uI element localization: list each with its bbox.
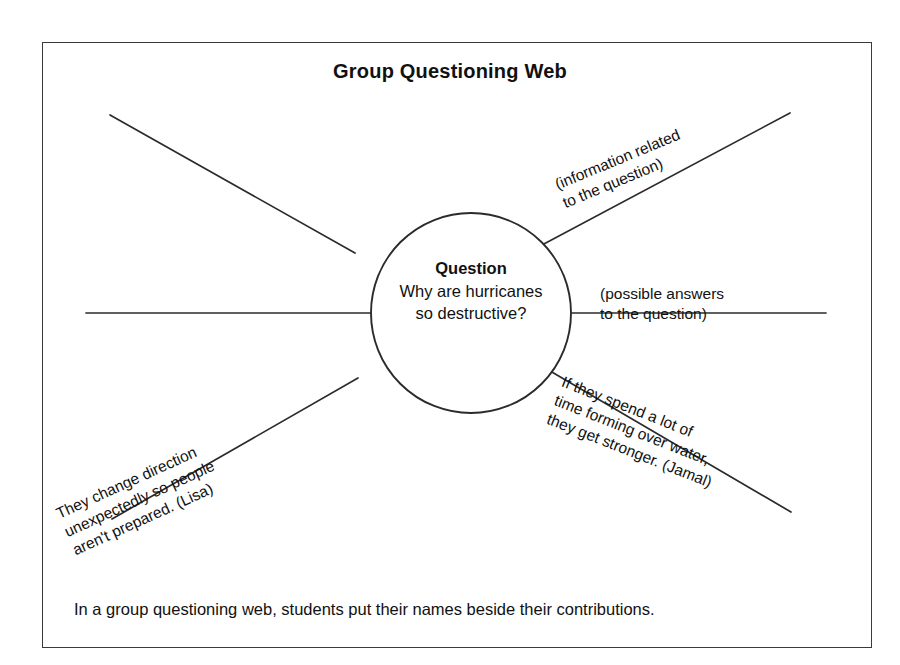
center-question-line-2: so destructive? [371,303,571,324]
spoke-line-upper-left [110,115,355,253]
page-title: Group Questioning Web [0,60,900,83]
diagram-page: Group Questioning Web Question Why are h… [0,0,900,665]
spoke-label-possible-answers: (possible answers to the question) [600,284,724,324]
center-question-text: Question Why are hurricanes so destructi… [371,258,571,324]
questioning-web-graphic [0,0,900,665]
center-question-line-1: Why are hurricanes [371,281,571,302]
figure-caption: In a group questioning web, students put… [74,600,834,619]
center-question-heading: Question [371,258,571,279]
spoke-label-answers-line-1: (possible answers [600,284,724,304]
spoke-label-answers-line-2: to the question) [600,304,724,324]
